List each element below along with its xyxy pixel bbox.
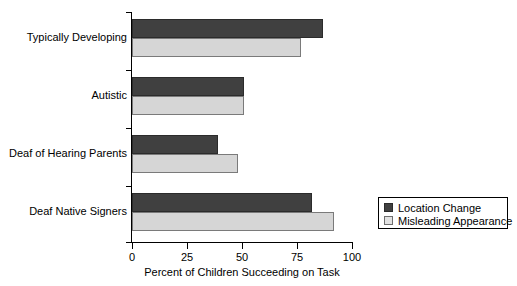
- bar-location-change-typically-developing: [132, 19, 323, 38]
- x-axis-tick: [242, 243, 243, 249]
- bar-misleading-appearance-deaf-native-signers: [132, 212, 334, 231]
- category-label-deaf-of-hearing-parents: Deaf of Hearing Parents: [0, 147, 127, 160]
- legend-item-location-change: Location Change: [384, 201, 481, 214]
- legend-swatch-dark-icon: [384, 203, 393, 212]
- category-label-autistic: Autistic: [0, 89, 127, 102]
- plot-area: [132, 12, 352, 242]
- bar-location-change-deaf-of-hearing-parents: [132, 135, 218, 154]
- x-axis-tick-label-100: 100: [332, 251, 372, 263]
- x-axis-tick: [132, 243, 133, 249]
- legend-label-location-change: Location Change: [398, 202, 481, 214]
- x-axis-tick: [352, 243, 353, 249]
- y-axis-tick: [126, 128, 132, 129]
- bar-misleading-appearance-typically-developing: [132, 38, 301, 57]
- bar-location-change-autistic: [132, 77, 244, 96]
- x-axis-tick-label-50: 50: [222, 251, 262, 263]
- x-axis-title: Percent of Children Succeeding on Task: [131, 266, 353, 279]
- legend-swatch-light-icon: [384, 216, 393, 225]
- bar-misleading-appearance-autistic: [132, 96, 244, 115]
- x-axis-tick: [187, 243, 188, 249]
- x-axis-tick-label-25: 25: [167, 251, 207, 263]
- x-axis-tick-label-0: 0: [112, 251, 152, 263]
- y-axis-tick: [126, 70, 132, 71]
- legend-item-misleading-appearance: Misleading Appearance: [384, 214, 512, 227]
- y-axis-tick: [126, 12, 132, 13]
- category-label-deaf-native-signers: Deaf Native Signers: [0, 205, 127, 218]
- legend-label-misleading-appearance: Misleading Appearance: [398, 215, 512, 227]
- bar-chart: Typically Developing Autistic Deaf of He…: [0, 0, 517, 286]
- legend: Location Change Misleading Appearance: [378, 197, 508, 229]
- y-axis-tick: [126, 186, 132, 187]
- category-label-typically-developing: Typically Developing: [0, 31, 127, 44]
- x-axis-tick: [297, 243, 298, 249]
- bar-location-change-deaf-native-signers: [132, 193, 312, 212]
- bar-misleading-appearance-deaf-of-hearing-parents: [132, 154, 238, 173]
- x-axis-tick-label-75: 75: [277, 251, 317, 263]
